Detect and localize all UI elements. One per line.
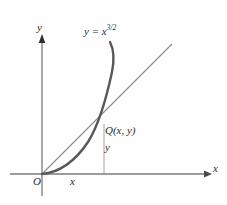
y-segment-label: y	[105, 142, 110, 153]
y-axis-arrowhead	[39, 34, 46, 43]
figure-container: y = x3/2 Q(x, y) y x O y x	[0, 0, 227, 205]
curve-equation-base: y = x	[84, 25, 107, 37]
x-segment-label: x	[70, 176, 75, 187]
origin-label: O	[33, 176, 41, 187]
secant-line	[42, 44, 172, 174]
curve-equation-label: y = x3/2	[84, 24, 116, 37]
x-axis-arrowhead	[204, 171, 212, 178]
x-axis-label: x	[213, 163, 218, 174]
power-curve	[42, 42, 114, 174]
curve-equation-exponent: 3/2	[107, 23, 117, 32]
point-q-label: Q(x, y)	[105, 125, 136, 136]
y-axis-label: y	[37, 22, 42, 33]
